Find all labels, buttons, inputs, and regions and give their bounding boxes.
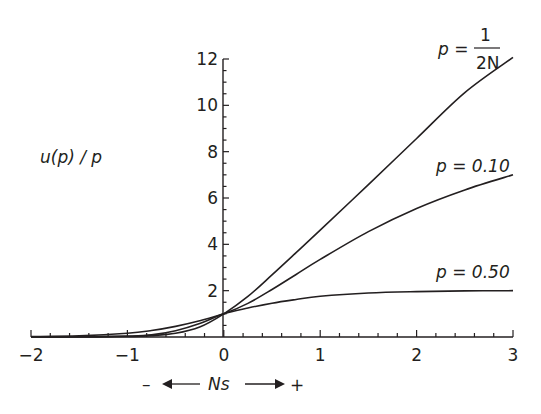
x-tick-label: −2 xyxy=(18,345,43,365)
x-tick-label: 0 xyxy=(218,345,229,365)
svg-text:–: – xyxy=(142,374,151,394)
label-p-0-50: p = 0.50 xyxy=(435,262,510,282)
svg-text:p =: p = xyxy=(437,39,468,59)
x-tick-label: 2 xyxy=(411,345,422,365)
chart: −2−1012324681012 u(p) / p p = 1 2N p = 0… xyxy=(0,0,541,414)
svg-text:+: + xyxy=(290,375,304,395)
x-tick-label: 3 xyxy=(508,345,519,365)
x-tick-label: −1 xyxy=(115,345,140,365)
y-tick-label: 12 xyxy=(196,49,218,69)
curve-series-1 xyxy=(31,175,513,337)
x-tick-label: 1 xyxy=(315,345,326,365)
svg-text:Ns: Ns xyxy=(208,374,230,394)
svg-text:1: 1 xyxy=(480,25,491,45)
y-tick-label: 2 xyxy=(207,281,218,301)
label-p-1-2N: p = 1 2N xyxy=(437,25,500,73)
arrow-left-icon xyxy=(162,379,172,389)
curves xyxy=(31,57,513,337)
x-axis-label: – Ns + xyxy=(142,374,304,395)
curve-series-2 xyxy=(31,291,513,337)
y-tick-label: 10 xyxy=(196,95,218,115)
label-p-0-10: p = 0.10 xyxy=(435,156,510,176)
svg-text:2N: 2N xyxy=(476,53,500,73)
y-tick-label: 8 xyxy=(207,142,218,162)
arrow-right-icon xyxy=(275,379,285,389)
curve-series-0 xyxy=(31,57,513,337)
y-axis-label: u(p) / p xyxy=(40,147,102,167)
tick-labels: −2−1012324681012 xyxy=(18,49,518,365)
y-tick-label: 6 xyxy=(207,188,218,208)
y-tick-label: 4 xyxy=(207,234,218,254)
